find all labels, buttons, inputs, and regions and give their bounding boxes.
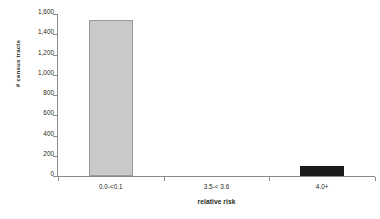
bar[interactable]	[89, 20, 133, 176]
bar[interactable]	[300, 166, 344, 176]
y-axis-tick-labels: 02004006008001,0001,2001,4001,600	[28, 12, 54, 176]
y-axis-tick	[53, 176, 57, 177]
y-axis-tick	[53, 55, 57, 56]
x-axis-tick	[269, 177, 270, 181]
y-axis-tick	[53, 115, 57, 116]
y-axis-tick	[53, 136, 57, 137]
y-axis-tick	[53, 95, 57, 96]
x-axis-title: relative risk	[58, 198, 375, 205]
y-axis-tick	[53, 14, 57, 15]
bar-slot	[300, 14, 344, 176]
x-axis-tick	[375, 177, 376, 181]
y-axis-tick	[53, 156, 57, 157]
x-axis-tick-label: 0.0-<0.1	[58, 183, 164, 191]
x-axis-tick-label: 3.5-< 3.6	[164, 183, 270, 191]
x-axis-tick-labels: 0.0-<0.13.5-< 3.64.0+	[58, 183, 375, 195]
y-axis-tick-label: 1,000	[28, 70, 54, 76]
bar-slot	[194, 14, 238, 176]
y-axis-tick-label: 200	[28, 151, 54, 157]
x-axis-tick	[164, 177, 165, 181]
plot-area	[58, 14, 375, 176]
y-axis-tick	[53, 34, 57, 35]
y-axis-tick-label: 800	[28, 90, 54, 96]
x-axis-tick-label: 4.0+	[269, 183, 375, 191]
bar-chart: # census tracts 02004006008001,0001,2001…	[0, 0, 380, 219]
y-axis-tick-label: 600	[28, 110, 54, 116]
y-axis-tick-label: 0	[28, 171, 54, 177]
x-axis-line	[57, 176, 375, 177]
y-axis-title: # census tracts	[14, 19, 21, 109]
y-axis-tick-label: 400	[28, 131, 54, 137]
bar-slot	[89, 14, 133, 176]
y-axis-tick	[53, 75, 57, 76]
y-axis-tick-label: 1,400	[28, 29, 54, 35]
x-axis-tick	[58, 177, 59, 181]
y-axis-tick-label: 1,600	[28, 9, 54, 15]
y-axis-tick-label: 1,200	[28, 50, 54, 56]
